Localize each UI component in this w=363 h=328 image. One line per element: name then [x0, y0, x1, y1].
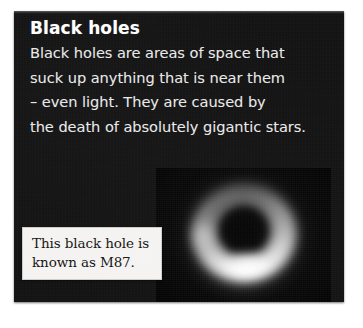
photo-caption-text: This black hole is known as M87.	[32, 234, 152, 272]
black-hole-photo	[156, 168, 331, 302]
caption-line-1: This black hole is	[32, 234, 152, 253]
body-line-1: Black holes are areas of space that	[30, 41, 334, 66]
body-line-3: – even light. They are caused by	[30, 90, 334, 115]
card-body-text: Black holes are areas of space that suck…	[30, 41, 334, 139]
fact-card: Black holes Black holes are areas of spa…	[14, 11, 344, 302]
page-canvas: Black holes Black holes are areas of spa…	[0, 0, 363, 328]
body-line-2: suck up anything that is near them	[30, 66, 334, 91]
caption-line-2: known as M87.	[32, 253, 152, 272]
photo-caption-box: This black hole is known as M87.	[22, 227, 162, 280]
page-title: Black holes	[30, 18, 334, 39]
card-text-block: Black holes Black holes are areas of spa…	[30, 18, 334, 139]
card-top-edge-highlight	[14, 11, 344, 14]
body-line-4: the death of absolutely gigantic stars.	[30, 115, 334, 140]
photo-vignette	[156, 168, 331, 302]
